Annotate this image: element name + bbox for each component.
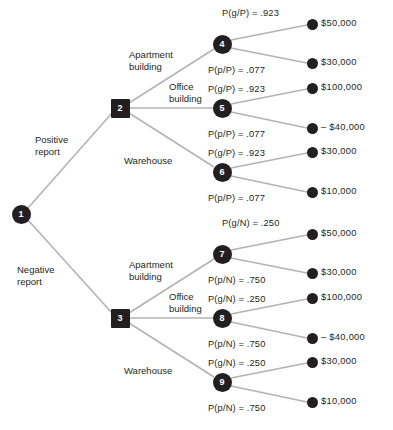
branch-office-top: Officebuilding xyxy=(169,81,202,104)
payoff-label: $50,000 xyxy=(321,228,357,240)
payoff-label: $30,000 xyxy=(321,267,357,279)
payoff-label: $30,000 xyxy=(321,356,357,368)
branch-negative-report: Negativereport xyxy=(17,264,55,287)
tree-edge xyxy=(231,322,307,338)
tree-edge xyxy=(231,235,307,250)
tree-node-8[interactable]: 8 xyxy=(213,309,232,328)
tree-node-label: 9 xyxy=(219,378,224,387)
tree-node-label: 5 xyxy=(219,104,224,113)
tree-node-6[interactable]: 6 xyxy=(213,163,232,182)
payoff-label: – $40,000 xyxy=(321,122,365,134)
branch-warehouse-top: Warehouse xyxy=(124,155,172,167)
prob-7-poor: P(p/N) = .750 xyxy=(208,275,266,287)
payoff-label: $30,000 xyxy=(321,146,357,158)
prob-5-poor: P(p/P) = .077 xyxy=(208,129,265,141)
prob-6-poor: P(p/P) = .077 xyxy=(208,193,265,205)
payoff-label: $10,000 xyxy=(321,396,357,408)
tree-node-7[interactable]: 7 xyxy=(213,245,232,264)
tree-edge xyxy=(231,386,307,402)
branch-label-line1: Warehouse xyxy=(124,365,172,377)
decision-tree-diagram: 123456789 $50,000$30,000$100,000– $40,00… xyxy=(0,0,393,430)
prob-9-good: P(g/N) = .250 xyxy=(208,358,266,370)
branch-label-line1: Warehouse xyxy=(124,155,172,167)
tree-node-label: 6 xyxy=(219,168,224,177)
prob-9-poor: P(p/N) = .750 xyxy=(208,403,266,415)
branch-label-line2: report xyxy=(35,146,68,158)
tree-node-2[interactable]: 2 xyxy=(111,99,130,118)
terminal-node[interactable] xyxy=(307,123,318,134)
branch-label-line1: Negative xyxy=(17,264,55,276)
branch-apartment-top: Apartmentbuilding xyxy=(129,49,173,72)
branch-label-line1: Positive xyxy=(35,134,68,146)
terminal-node[interactable] xyxy=(307,83,318,94)
tree-node-label: 7 xyxy=(219,250,224,259)
terminal-node[interactable] xyxy=(307,268,318,279)
terminal-node[interactable] xyxy=(307,357,318,368)
payoff-label: $50,000 xyxy=(321,18,357,30)
branch-label-line2: building xyxy=(169,93,202,105)
terminal-node[interactable] xyxy=(307,147,318,158)
tree-edge xyxy=(231,48,307,63)
branch-positive-report: Positivereport xyxy=(35,134,68,157)
branch-apartment-bottom: Apartmentbuilding xyxy=(129,259,173,282)
terminal-node[interactable] xyxy=(307,58,318,69)
tree-node-label: 2 xyxy=(117,104,122,113)
branch-label-line2: building xyxy=(129,271,173,283)
prob-4-poor: P(p/P) = .077 xyxy=(208,65,265,77)
prob-5-good: P(g/P) = .923 xyxy=(208,84,265,96)
terminal-node[interactable] xyxy=(307,229,318,240)
terminal-node[interactable] xyxy=(307,397,318,408)
terminal-node[interactable] xyxy=(307,333,318,344)
tree-node-label: 4 xyxy=(219,40,224,49)
branch-warehouse-bottom: Warehouse xyxy=(124,365,172,377)
tree-node-1[interactable]: 1 xyxy=(12,205,31,224)
tree-node-label: 1 xyxy=(18,210,23,219)
branch-office-bottom: Officebuilding xyxy=(169,291,202,314)
payoff-label: – $40,000 xyxy=(321,332,365,344)
branch-label-line1: Office xyxy=(169,81,202,93)
prob-8-poor: P(p/N) = .750 xyxy=(208,339,266,351)
branch-label-line2: building xyxy=(169,303,202,315)
prob-7-good: P(g/N) = .250 xyxy=(222,218,280,230)
tree-edge xyxy=(231,112,307,128)
branch-label-line1: Apartment xyxy=(129,259,173,271)
terminal-node[interactable] xyxy=(307,293,318,304)
tree-node-9[interactable]: 9 xyxy=(213,373,232,392)
tree-node-3[interactable]: 3 xyxy=(111,309,130,328)
payoff-label: $10,000 xyxy=(321,186,357,198)
terminal-node[interactable] xyxy=(307,187,318,198)
payoff-label: $100,000 xyxy=(321,82,362,94)
tree-edge xyxy=(231,25,307,40)
prob-6-good: P(g/P) = .923 xyxy=(208,148,265,160)
prob-8-good: P(g/N) = .250 xyxy=(208,294,266,306)
prob-4-good: P(g/P) = .923 xyxy=(222,8,279,20)
tree-node-5[interactable]: 5 xyxy=(213,99,232,118)
terminal-node[interactable] xyxy=(307,19,318,30)
tree-node-4[interactable]: 4 xyxy=(213,35,232,54)
branch-label-line1: Apartment xyxy=(129,49,173,61)
branch-label-line1: Office xyxy=(169,291,202,303)
branch-label-line2: report xyxy=(17,276,55,288)
tree-edge xyxy=(231,258,307,273)
tree-edge xyxy=(28,113,112,208)
branch-label-line2: building xyxy=(129,61,173,73)
tree-node-label: 3 xyxy=(117,314,122,323)
payoff-label: $30,000 xyxy=(321,57,357,69)
tree-node-label: 8 xyxy=(219,314,224,323)
tree-edge xyxy=(231,176,307,192)
payoff-label: $100,000 xyxy=(321,292,362,304)
